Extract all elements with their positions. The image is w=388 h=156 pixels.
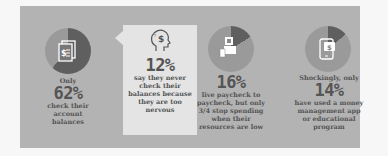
pie-circle-14: $ bbox=[305, 26, 351, 72]
stat-line: nervous bbox=[123, 106, 197, 114]
stat-line: or educational bbox=[288, 115, 370, 123]
svg-text:?: ? bbox=[154, 33, 156, 38]
stat-line: live paycheck to bbox=[192, 91, 270, 99]
svg-text:$: $ bbox=[158, 34, 164, 44]
stat-percent: 16% bbox=[192, 74, 270, 91]
pie-circle-62: $ bbox=[45, 28, 91, 74]
stat-line: check their bbox=[123, 82, 197, 90]
stat-62: Only 62% check their account balances bbox=[32, 77, 104, 126]
svg-text:$: $ bbox=[327, 44, 332, 52]
head-dollar-icon: $ ? bbox=[150, 29, 172, 53]
cash-hand-icon bbox=[219, 36, 241, 58]
stat-line: say they never bbox=[123, 74, 197, 82]
stat-line: balances bbox=[32, 118, 104, 126]
callout-box: $ ? 12% say they never check their balan… bbox=[123, 25, 197, 135]
stat-line: they are too bbox=[123, 98, 197, 106]
stat-12: 12% say they never check their balances … bbox=[123, 57, 197, 114]
stat-percent: 14% bbox=[288, 82, 370, 99]
stat-16: 16% live paycheck to paycheck, but only … bbox=[192, 74, 270, 131]
stat-percent: 62% bbox=[32, 85, 104, 102]
stat-line: program bbox=[288, 123, 370, 131]
stat-line: check their bbox=[32, 102, 104, 110]
stat-line: paycheck, but only bbox=[192, 99, 270, 107]
document-dollar-icon: $ bbox=[58, 40, 78, 62]
stat-line: when their bbox=[192, 115, 270, 123]
stat-line: account bbox=[32, 110, 104, 118]
stat-line: have used a money bbox=[288, 99, 370, 107]
phone-dollar-icon: $ bbox=[319, 38, 337, 60]
stat-line: resources are low bbox=[192, 123, 270, 131]
stat-line: 3/4 stop spending bbox=[192, 107, 270, 115]
stat-14: Shockingly, only 14% have used a money m… bbox=[288, 74, 370, 131]
stat-percent: 12% bbox=[123, 57, 197, 74]
infographic-panel: $ Only 62% check their account balances … bbox=[20, 6, 360, 148]
stat-line: management app bbox=[288, 107, 370, 115]
pie-circle-16 bbox=[208, 26, 254, 72]
stat-line: balances because bbox=[123, 90, 197, 98]
